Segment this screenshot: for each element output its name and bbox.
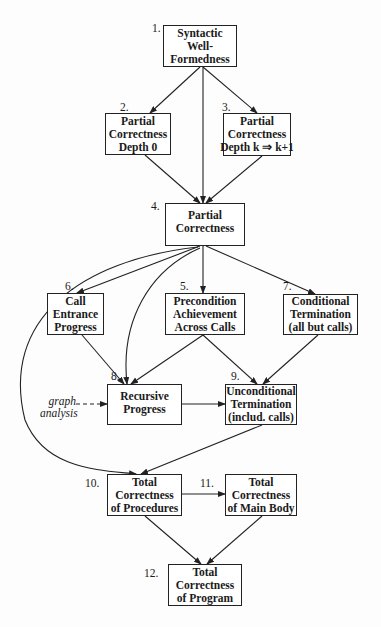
node-7-number: 7. (283, 280, 292, 292)
node-line: Correctness (176, 579, 235, 592)
node-line: (all but calls) (289, 321, 353, 334)
edge-3-4 (206, 156, 262, 203)
edge-5-8 (131, 335, 203, 384)
node-line: Termination (231, 398, 292, 411)
node-line: Correctness (232, 489, 291, 502)
node-line: Correctness (176, 222, 235, 235)
node-5-number: 5. (180, 280, 189, 292)
edge-1-2 (150, 67, 200, 113)
node-syntactic-well-formedness: Syntactic Well- Formedness (163, 25, 237, 67)
node-line: Partial (240, 115, 274, 128)
node-line: Call (65, 295, 85, 308)
node-total-correctness-main-body: Total Correctness of Main Body (225, 474, 297, 516)
node-9-number: 9. (231, 370, 240, 382)
node-8-number: 8. (111, 370, 120, 382)
edge-2-4 (145, 155, 200, 203)
node-line: Depth 0 (119, 141, 158, 154)
note-line: analysis (40, 407, 76, 419)
node-line: Depth k ⇒ k+1 (220, 141, 294, 154)
node-line: (includ. calls) (228, 411, 294, 424)
node-line: Unconditional (226, 385, 296, 398)
note-line: graph (40, 395, 76, 407)
node-line: Achievement (173, 308, 237, 321)
node-1-number: 1. (152, 22, 161, 34)
node-3-number: 3. (222, 101, 231, 113)
node-12-number: 12. (144, 567, 158, 579)
node-line: Entrance (53, 308, 98, 321)
edge-4-7 (206, 246, 315, 294)
node-line: Well- (187, 40, 213, 53)
node-line: Partial (188, 209, 222, 222)
node-recursive-progress: Recursive Progress (107, 384, 182, 425)
node-line: Precondition (173, 295, 236, 308)
node-precondition-achievement: Precondition Achievement Across Calls (165, 293, 245, 335)
node-line: of Procedures (111, 502, 179, 515)
node-4-number: 4. (151, 200, 160, 212)
node-line: Progress (54, 321, 96, 334)
node-line: Total (248, 476, 273, 489)
node-line: Progress (123, 403, 165, 416)
node-2-number: 2. (120, 101, 129, 113)
node-10-number: 10. (85, 477, 99, 489)
node-partial-correctness: Partial Correctness (165, 203, 245, 246)
node-line: Formedness (170, 53, 229, 66)
node-line: Total (132, 476, 157, 489)
node-total-correctness-program: Total Correctness of Program (168, 564, 242, 606)
node-unconditional-termination: Unconditional Termination (includ. calls… (225, 384, 297, 425)
edge-9-10 (141, 425, 262, 474)
dependency-diagram: 1. Syntactic Well- Formedness 2. Partial… (0, 0, 381, 627)
node-line: Total (192, 566, 217, 579)
node-line: Conditional (291, 295, 349, 308)
node-total-correctness-procedures: Total Correctness of Procedures (107, 474, 182, 516)
node-partial-correctness-depth-0: Partial Correctness Depth 0 (105, 113, 171, 155)
node-line: Recursive (120, 390, 169, 403)
edge-7-9 (263, 335, 318, 384)
node-partial-correctness-depth-k: Partial Correctness Depth k ⇒ k+1 (223, 113, 291, 156)
node-line: Correctness (115, 489, 174, 502)
node-11-number: 11. (200, 477, 214, 489)
node-line: Termination (290, 308, 351, 321)
edge-5-9 (203, 335, 257, 384)
node-line: of Main Body (227, 502, 294, 515)
node-line: Correctness (228, 128, 287, 141)
edge-11-12 (207, 516, 262, 564)
node-6-number: 6. (65, 280, 74, 292)
node-line: Partial (121, 115, 155, 128)
node-line: Across Calls (175, 321, 236, 334)
node-line: of Program (177, 592, 233, 605)
node-line: Syntactic (177, 27, 222, 40)
graph-analysis-note: graph analysis (40, 395, 76, 419)
node-conditional-termination: Conditional Termination (all but calls) (283, 294, 358, 335)
node-call-entrance-progress: Call Entrance Progress (47, 293, 104, 335)
edge-10-12 (145, 516, 201, 564)
node-line: Correctness (109, 128, 168, 141)
